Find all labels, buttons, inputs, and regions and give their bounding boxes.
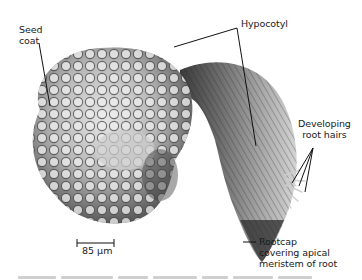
- seed-coat-shape: [33, 47, 193, 223]
- root-hairs-label: Developing root hairs: [298, 118, 351, 140]
- rootcap-label: Rootcap covering apical meristem of root: [259, 236, 337, 269]
- seed-coat-label: Seed coat: [19, 24, 42, 46]
- hypocotyl-label: Hypocotyl: [241, 18, 288, 29]
- micrograph-figure: Seed coat Hypocotyl Developing root hair…: [0, 0, 362, 280]
- hypocotyl-root-shape: [180, 62, 297, 262]
- scale-bar-label: 85 μm: [82, 245, 112, 256]
- caption-cut-off: [18, 273, 348, 280]
